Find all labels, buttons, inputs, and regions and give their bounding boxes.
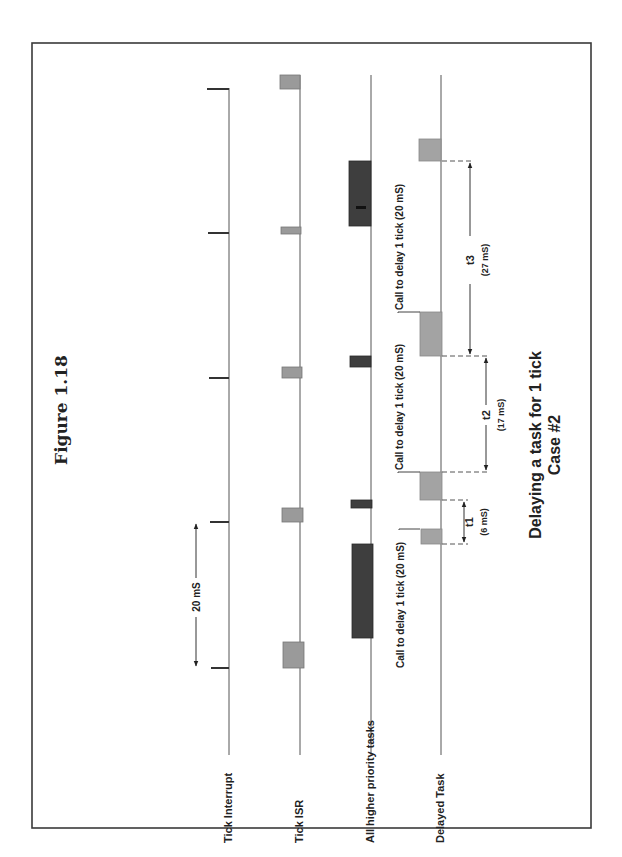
t3-label: t3 [464,255,476,265]
t3-value: (27 mS) [480,244,490,277]
hp-marker [356,206,366,209]
figure-frame [32,43,591,828]
label-delayed-task: Delayed Task [434,773,446,843]
label-tick-interrupt: Tick Interrupt [222,773,234,843]
higher-priority-executions [349,161,373,638]
t1-label: t1 [463,517,475,527]
period-label: 20 mS [191,582,202,612]
call-bracket-2 [398,472,420,473]
interval-t2: t2 (17 mS) [480,358,506,470]
diagram-subtitle: Case #2 [546,415,563,476]
delayed-task-executions [419,139,442,544]
call-bracket-3 [398,312,420,313]
t2-value: (17 mS) [496,399,506,432]
interval-t1: t1 (6 mS) [463,502,489,542]
t2-label: t2 [480,410,492,420]
diagram-title: Delaying a task for 1 tick [527,351,544,539]
call-label-1: Call to delay 1 tick (20 mS) [395,542,406,668]
call-label-3: Call to delay 1 tick (20 mS) [394,184,405,310]
timing-diagram: Figure 1.18 Tick Interrupt Tick ISR All … [0,0,622,857]
period-marker: 20 mS [191,524,202,666]
t1-value: (6 mS) [479,508,489,536]
dimension-extensions [442,161,490,544]
label-tick-isr: Tick ISR [293,800,305,843]
call-label-2: Call to delay 1 tick (20 mS) [394,344,405,470]
call-bracket-1 [399,529,420,530]
tick-marks [207,89,229,668]
figure-label: Figure 1.18 [51,355,71,465]
label-higher-priority: All higher priority tasks [364,720,376,843]
interval-t3: t3 (27 mS) [464,163,490,354]
